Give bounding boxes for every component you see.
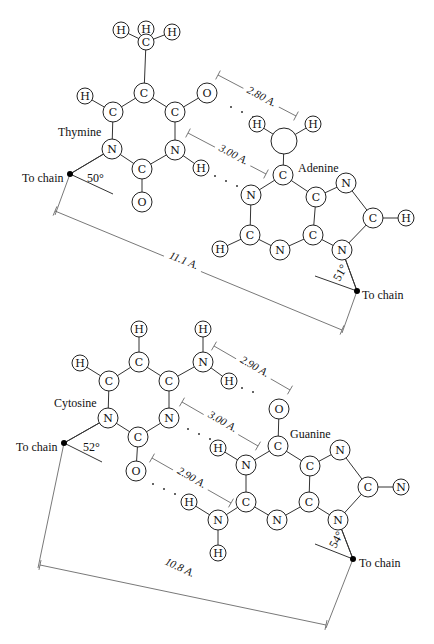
hydrogen-bond-dot bbox=[174, 493, 176, 495]
pair-cg: 2.90 A.3.00 A.2.90 A.10.8 A.52°54°HHCHNC… bbox=[16, 321, 409, 630]
extension-line bbox=[326, 559, 353, 628]
atom-c: C bbox=[306, 187, 326, 207]
dimension-tick bbox=[211, 342, 216, 351]
svg-text:O: O bbox=[137, 196, 146, 209]
hydrogen-bond-dot bbox=[225, 180, 227, 182]
distance-label: 3.00 A. bbox=[206, 407, 240, 434]
atom-h: H bbox=[195, 321, 211, 337]
angle-label: 50° bbox=[87, 171, 104, 185]
atom-h: H bbox=[305, 116, 321, 132]
svg-text:H: H bbox=[198, 323, 208, 336]
svg-text:H: H bbox=[215, 243, 225, 256]
svg-text:H: H bbox=[401, 212, 411, 225]
atom-n: N bbox=[102, 139, 122, 159]
svg-text:H: H bbox=[75, 357, 85, 370]
hydrogen-bond-dot bbox=[187, 428, 189, 430]
extension-line bbox=[38, 443, 64, 568]
distance-label: 2.80 A. bbox=[245, 83, 278, 108]
atom-n: N bbox=[236, 455, 256, 475]
atom-c: C bbox=[363, 208, 383, 228]
dimension-tick bbox=[216, 71, 221, 80]
svg-text:N: N bbox=[275, 244, 285, 257]
svg-text:H: H bbox=[184, 496, 194, 509]
svg-text:N: N bbox=[337, 244, 347, 257]
svg-text:O: O bbox=[202, 87, 211, 100]
atom-c: C bbox=[159, 371, 179, 391]
svg-text:N: N bbox=[333, 514, 343, 527]
hydrogen-bond-dot bbox=[241, 111, 243, 113]
svg-text:C: C bbox=[109, 106, 117, 119]
svg-text:C: C bbox=[134, 431, 142, 444]
atom-n: N bbox=[332, 240, 352, 260]
hydrogen-bond-dot bbox=[198, 433, 200, 435]
dimension-tick bbox=[179, 398, 184, 407]
atom-c: C bbox=[240, 225, 260, 245]
guanine-label: Guanine bbox=[290, 427, 331, 441]
svg-text:H: H bbox=[213, 442, 223, 455]
atom-n: N bbox=[393, 479, 409, 495]
to-chain-left-label: To chain bbox=[22, 171, 63, 185]
atom-c: C bbox=[236, 492, 256, 512]
svg-text:C: C bbox=[246, 229, 254, 242]
svg-text:C: C bbox=[171, 106, 179, 119]
atom-n: N bbox=[193, 352, 213, 372]
dimension-tick bbox=[294, 112, 299, 121]
atom-c: C bbox=[129, 352, 149, 372]
atom-h: H bbox=[398, 210, 414, 226]
angle-label: 54° bbox=[326, 529, 347, 551]
svg-text:C: C bbox=[364, 481, 372, 494]
svg-text:N: N bbox=[198, 356, 208, 369]
dimension-tick bbox=[255, 442, 260, 451]
hydrogen-bond-dot bbox=[230, 106, 232, 108]
svg-text:N: N bbox=[272, 514, 282, 527]
atom-h: H bbox=[210, 440, 226, 456]
angle-label: 52° bbox=[83, 440, 100, 454]
atom-c: C bbox=[103, 102, 123, 122]
svg-text:C: C bbox=[312, 191, 320, 204]
atom-h: H bbox=[164, 24, 180, 40]
atom-h: H bbox=[249, 116, 265, 132]
atom-c: C bbox=[134, 83, 154, 103]
atom-c: C bbox=[299, 492, 319, 512]
atom-h: H bbox=[221, 373, 237, 389]
atom-c: C bbox=[99, 371, 119, 391]
svg-text:H: H bbox=[196, 162, 206, 175]
svg-text:C: C bbox=[165, 375, 173, 388]
svg-text:O: O bbox=[274, 403, 283, 416]
atom-h: H bbox=[212, 241, 228, 257]
atom-o: O bbox=[126, 461, 146, 481]
thymine-label: Thymine bbox=[58, 125, 101, 139]
atom-o: O bbox=[197, 83, 217, 103]
atom-c: C bbox=[300, 456, 320, 476]
to-chain-right-label: To chain bbox=[359, 556, 400, 570]
chain-attachment-point bbox=[354, 288, 360, 294]
svg-text:H: H bbox=[80, 90, 90, 103]
svg-text:H: H bbox=[167, 26, 177, 39]
atom-h: H bbox=[131, 321, 147, 337]
chain-attachment-point bbox=[350, 556, 356, 562]
atom-c: C bbox=[165, 102, 185, 122]
atom-h: H bbox=[77, 88, 93, 104]
svg-text:C: C bbox=[140, 87, 148, 100]
atom-n: N bbox=[208, 510, 228, 530]
svg-text:C: C bbox=[105, 375, 113, 388]
atom-n: N bbox=[328, 510, 348, 530]
atom-n: N bbox=[165, 140, 185, 160]
to-chain-right-label: To chain bbox=[362, 288, 403, 302]
svg-text:C: C bbox=[135, 356, 143, 369]
svg-text:H: H bbox=[116, 24, 126, 37]
svg-text:O: O bbox=[131, 465, 140, 478]
atom-o: O bbox=[269, 399, 289, 419]
hydrogen-bond-dot bbox=[209, 438, 211, 440]
atom-c: C bbox=[303, 225, 323, 245]
pair-at: 2.80 A.3.00 A.11.1 A.50°51°HHHCCHOCCNNCH… bbox=[22, 21, 414, 335]
svg-text:H: H bbox=[252, 118, 262, 131]
atom-c: C bbox=[132, 159, 152, 179]
atom-n: N bbox=[336, 173, 356, 193]
svg-text:C: C bbox=[305, 496, 313, 509]
cytosine-label: Cytosine bbox=[54, 396, 97, 410]
distance-label: 2.90 A. bbox=[238, 353, 271, 379]
hydrogen-bond-dot bbox=[236, 185, 238, 187]
svg-text:H: H bbox=[134, 323, 144, 336]
svg-text:N: N bbox=[241, 459, 251, 472]
